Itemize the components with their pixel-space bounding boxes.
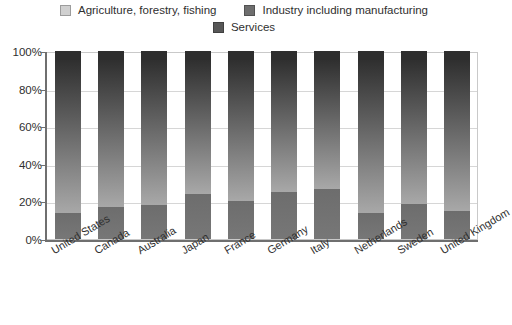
x-axis-tick-label: Japan — [179, 231, 211, 257]
x-axis-tick-label: Germany — [265, 223, 310, 257]
x-axis-tick-label: Australia — [135, 224, 178, 256]
x-axis-tick-label: France — [222, 228, 258, 256]
x-axis-tick-label: Italy — [308, 236, 331, 257]
x-axis-tick-label: United Kingdom — [438, 206, 511, 257]
